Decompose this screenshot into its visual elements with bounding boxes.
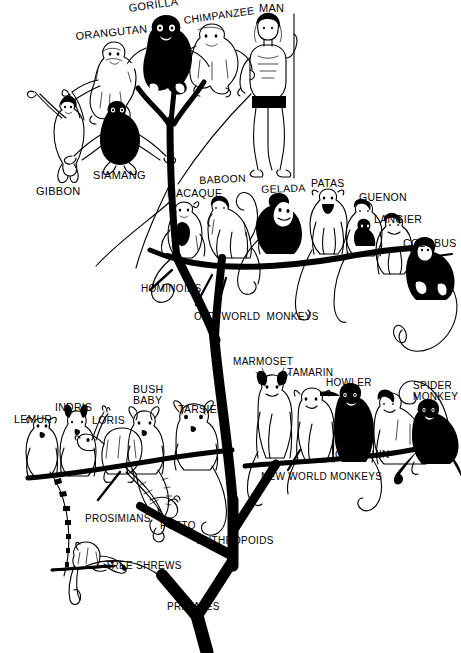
baboon-illustration [208,193,260,284]
tree-drawing: .ink { fill: #000; } .out { fill: none; … [0,0,461,653]
tarsier-illustration [174,401,227,535]
label-indris: INDRIS [55,402,92,413]
orangutan-illustration [72,42,136,127]
tree-shrew-illustration [52,542,127,605]
label-capuchin: CAPUCHIN [335,450,390,461]
label-bush-baby: BUSH BABY [133,384,163,406]
lemur-illustration [26,417,71,576]
loris-illustration [75,428,142,482]
label-langier: LANGIER [374,214,422,225]
twig-prosimian [98,472,120,500]
branch-main-stem [214,335,233,505]
label-lemur: LEMUR [14,414,52,425]
label-howler: HOWLER [326,378,372,389]
label-marmoset: MARMOSET [233,357,293,368]
label-patas: PATAS [311,178,345,189]
label-prosimians: PROSIMIANS [85,514,151,525]
label-tree-shrews: TREE SHREWS [105,561,182,572]
man-illustration [238,13,297,178]
branch-man [178,94,251,184]
label-potto: POTTO [160,521,196,532]
label-guenon: GUENON [359,192,407,203]
howler-illustration [333,383,382,511]
marmoset-illustration [247,368,292,506]
branch-orangutan [138,88,170,126]
gibbon-illustration [27,90,84,183]
label-anthropoids: ANTHROPOIDS [197,536,274,547]
label-colobus: COLOBUS [403,238,456,249]
label-siamang: SIAMANG [93,170,146,182]
label-old-world-monkeys: OLD WORLD MONKEYS [194,312,319,323]
label-hominoids: HOMINOIDS [141,284,201,295]
label-macaque: MACAQUE [167,188,222,199]
label-primates: PRIMATES [167,602,220,613]
label-loris: LORIS [92,415,125,426]
label-tarsier: TARSIER [178,404,225,415]
label-man: MAN [259,3,284,15]
bough-old-world-tip [150,250,169,257]
label-gibbon: GIBBON [36,186,81,198]
label-new-world-monkeys: NEW WORLD MONKEYS [261,472,382,483]
patas-illustration [295,189,347,320]
label-gelada: GELADA [261,182,306,195]
primate-tree-figure: .ink { fill: #000; } .out { fill: none; … [0,0,461,653]
label-spider-monkey: SPIDER MONKEY [413,381,458,402]
